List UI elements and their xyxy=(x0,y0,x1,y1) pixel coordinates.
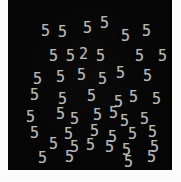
page-margin-right xyxy=(172,0,181,182)
distractor-glyph[interactable]: 5 xyxy=(152,92,161,107)
distractor-glyph[interactable]: 5 xyxy=(109,106,118,121)
distractor-glyph[interactable]: 5 xyxy=(124,155,133,170)
distractor-glyph[interactable]: 5 xyxy=(86,138,95,153)
screenshot-root: 5555555525555555555555555555555555555555… xyxy=(0,0,181,182)
distractor-glyph[interactable]: 5 xyxy=(129,90,138,105)
distractor-glyph[interactable]: 5 xyxy=(143,69,152,84)
distractor-glyph[interactable]: 5 xyxy=(135,49,144,64)
distractor-glyph[interactable]: 5 xyxy=(41,24,50,39)
distractor-glyph[interactable]: 5 xyxy=(121,29,130,44)
distractor-glyph[interactable]: 5 xyxy=(100,16,109,31)
distractor-glyph[interactable]: 5 xyxy=(105,140,114,155)
distractor-glyph[interactable]: 5 xyxy=(56,107,65,122)
distractor-glyph[interactable]: 5 xyxy=(49,137,58,152)
distractor-glyph[interactable]: 5 xyxy=(93,108,102,123)
target-glyph[interactable]: 2 xyxy=(79,47,88,62)
distractor-glyph[interactable]: 5 xyxy=(96,49,105,64)
distractor-glyph[interactable]: 5 xyxy=(87,89,96,104)
distractor-glyph[interactable]: 5 xyxy=(142,24,151,39)
distractor-glyph[interactable]: 5 xyxy=(98,72,107,87)
distractor-glyph[interactable]: 5 xyxy=(38,151,47,166)
distractor-glyph[interactable]: 5 xyxy=(49,49,58,64)
distractor-glyph[interactable]: 5 xyxy=(58,25,67,40)
distractor-glyph[interactable]: 5 xyxy=(116,66,125,81)
distractor-glyph[interactable]: 5 xyxy=(77,68,86,83)
page-margin-bottom xyxy=(0,170,181,182)
distractor-glyph[interactable]: 5 xyxy=(83,21,92,36)
distractor-glyph[interactable]: 5 xyxy=(56,70,65,85)
distractor-glyph[interactable]: 5 xyxy=(147,150,156,165)
distractor-glyph[interactable]: 5 xyxy=(158,49,167,64)
distractor-glyph[interactable]: 5 xyxy=(65,150,74,165)
distractor-glyph[interactable]: 5 xyxy=(30,126,39,141)
visual-search-display[interactable]: 5555555525555555555555555555555555555555… xyxy=(8,0,172,170)
page-margin-left xyxy=(0,0,8,182)
distractor-glyph[interactable]: 5 xyxy=(128,127,137,142)
distractor-glyph[interactable]: 5 xyxy=(26,110,35,125)
distractor-glyph[interactable]: 5 xyxy=(33,72,42,87)
distractor-glyph[interactable]: 5 xyxy=(30,88,39,103)
distractor-glyph[interactable]: 5 xyxy=(66,49,75,64)
